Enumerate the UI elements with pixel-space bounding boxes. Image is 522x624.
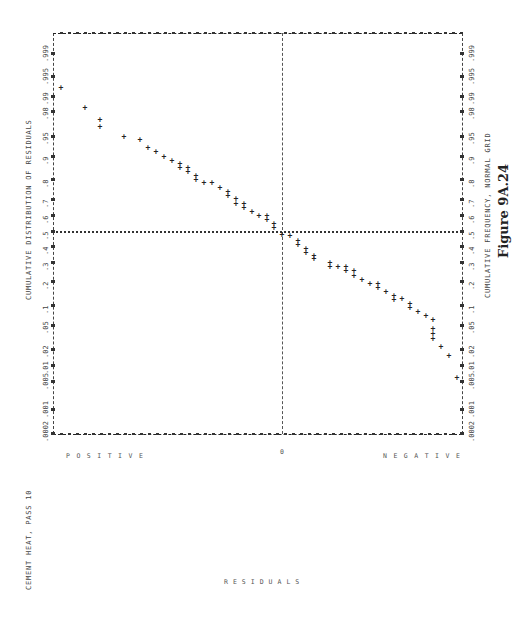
edge-mark (196, 32, 199, 34)
tick-mark (51, 380, 55, 383)
edge-mark (276, 433, 279, 435)
edge-mark (404, 433, 407, 435)
data-point: + (429, 316, 437, 324)
tick-label: .0002 (468, 421, 476, 442)
edge-mark (204, 32, 207, 34)
edge-mark (196, 433, 199, 435)
tick-mark (460, 95, 464, 98)
tick-label: .98 (468, 107, 476, 120)
tick-mark (51, 245, 55, 248)
tick-mark (460, 75, 464, 78)
frame-bottom-border (53, 434, 462, 435)
data-point: + (120, 133, 128, 141)
frame-top-border (53, 33, 462, 34)
tick-label: .999 (468, 45, 476, 62)
data-point: + (57, 84, 65, 92)
tick-mark (51, 52, 55, 55)
tick-label: .8 (468, 180, 476, 188)
data-point: + (278, 231, 286, 239)
edge-mark (332, 433, 335, 435)
tick-label: .8 (42, 180, 50, 188)
tick-mark (460, 324, 464, 327)
tick-label: .999 (42, 45, 50, 62)
data-point: + (390, 296, 398, 304)
edge-mark (380, 32, 383, 34)
tick-label: .02 (42, 345, 50, 358)
data-point: + (358, 276, 366, 284)
tick-mark (460, 135, 464, 138)
tick-mark (51, 178, 55, 181)
data-point: + (294, 241, 302, 249)
frame-left-border (53, 33, 54, 434)
edge-mark (292, 32, 295, 34)
tick-mark (51, 75, 55, 78)
tick-label: .7 (42, 200, 50, 208)
edge-mark (388, 433, 391, 435)
edge-mark (324, 32, 327, 34)
edge-mark (356, 433, 359, 435)
edge-mark (132, 433, 135, 435)
edge-mark (220, 433, 223, 435)
data-point: + (286, 232, 294, 240)
tick-label: .6 (42, 216, 50, 224)
edge-mark (348, 32, 351, 34)
edge-mark (388, 32, 391, 34)
edge-mark (284, 32, 287, 34)
edge-mark (268, 433, 271, 435)
tick-mark (460, 178, 464, 181)
tick-mark (51, 364, 55, 367)
edge-mark (212, 433, 215, 435)
edge-mark (156, 32, 159, 34)
tick-label: .99 (42, 92, 50, 105)
edge-mark (180, 433, 183, 435)
data-point: + (240, 204, 248, 212)
edge-mark (356, 32, 359, 34)
tick-mark (460, 364, 464, 367)
data-point: + (224, 192, 232, 200)
data-point: + (342, 267, 350, 275)
edge-mark (444, 433, 447, 435)
tick-mark (460, 304, 464, 307)
data-point: + (208, 179, 216, 187)
edge-mark (84, 32, 87, 34)
tick-mark (51, 261, 55, 264)
edge-mark (60, 433, 63, 435)
edge-mark (316, 433, 319, 435)
tick-label: .5 (42, 232, 50, 240)
tick-label: .95 (468, 132, 476, 145)
edge-mark (236, 433, 239, 435)
data-point: + (255, 212, 263, 220)
edge-mark (372, 433, 375, 435)
tick-mark (460, 348, 464, 351)
edge-mark (340, 32, 343, 34)
edge-mark (452, 32, 455, 34)
data-point: + (429, 335, 437, 343)
edge-mark (332, 32, 335, 34)
edge-mark (180, 32, 183, 34)
edge-mark (404, 32, 407, 34)
data-point: + (366, 280, 374, 288)
tick-label: .9 (468, 157, 476, 165)
edge-mark (268, 32, 271, 34)
half-frequency-line (53, 231, 462, 233)
edge-mark (364, 433, 367, 435)
tick-label: .99 (468, 92, 476, 105)
tick-label: .01 (42, 361, 50, 374)
tick-label: .2 (468, 282, 476, 290)
data-point: + (398, 295, 406, 303)
data-point: + (192, 176, 200, 184)
edge-mark (164, 433, 167, 435)
edge-mark (260, 433, 263, 435)
edge-mark (76, 433, 79, 435)
edge-mark (364, 32, 367, 34)
data-point: + (382, 288, 390, 296)
edge-mark (236, 32, 239, 34)
tick-mark (51, 280, 55, 283)
edge-mark (116, 32, 119, 34)
tick-mark (51, 432, 55, 435)
data-point: + (160, 153, 168, 161)
data-point: + (326, 263, 334, 271)
tick-mark (51, 230, 55, 233)
edge-mark (292, 433, 295, 435)
data-point: + (445, 352, 453, 360)
